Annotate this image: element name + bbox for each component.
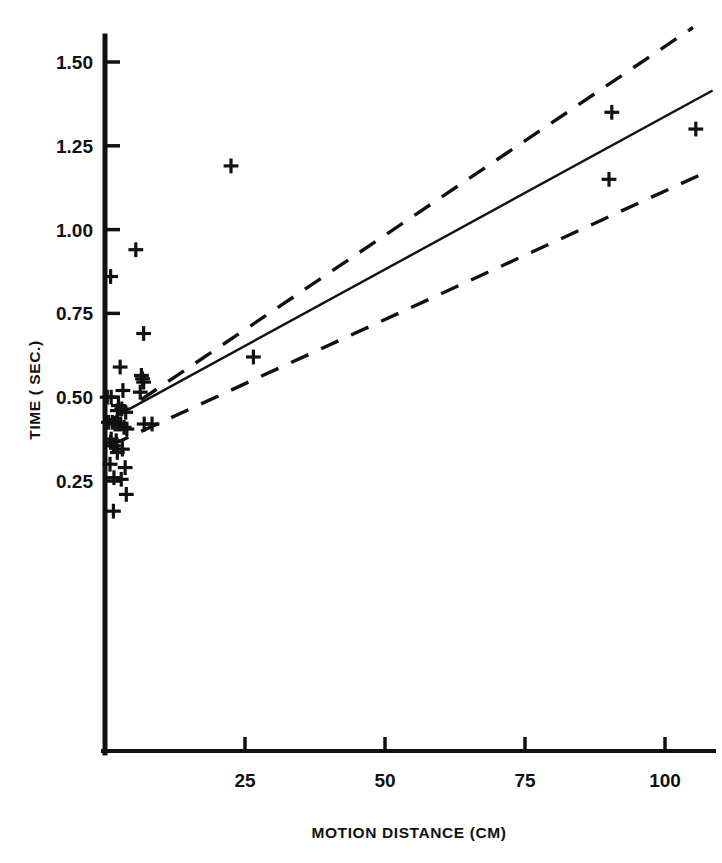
y-axis-tick-labels: 0.250.500.751.001.251.50 (56, 52, 93, 492)
data-point-marker (688, 122, 703, 137)
x-tick-label: 100 (649, 770, 681, 791)
regression-line (105, 90, 713, 422)
x-axis-ticks (245, 737, 665, 751)
scatter-plot-figure: 0.250.500.751.001.251.50 255075100 MOTIO… (0, 0, 722, 863)
data-points-group (100, 105, 703, 519)
data-point-marker (107, 470, 122, 485)
upper-confidence-band (141, 27, 693, 399)
y-tick-label: 1.00 (56, 220, 93, 241)
chart-canvas: 0.250.500.751.001.251.50 255075100 MOTIO… (0, 0, 722, 863)
y-axis-title: TIME ( SEC.) (26, 340, 43, 439)
x-tick-label: 75 (514, 770, 536, 791)
data-point-marker (113, 360, 128, 375)
data-point-marker (604, 105, 619, 120)
data-point-marker (136, 326, 151, 341)
y-tick-label: 0.50 (56, 387, 93, 408)
axis-lines (103, 36, 714, 753)
x-axis-title: MOTION DISTANCE (CM) (311, 824, 506, 841)
data-point-marker (106, 504, 121, 519)
data-point-marker (224, 159, 239, 174)
data-point-marker (119, 487, 134, 502)
x-tick-label: 50 (374, 770, 395, 791)
x-axis-tick-labels: 255075100 (234, 770, 680, 791)
y-tick-label: 1.50 (56, 52, 93, 73)
y-tick-label: 0.25 (56, 471, 93, 492)
data-point-marker (128, 242, 143, 257)
lower-confidence-band (111, 174, 701, 445)
x-tick-label: 25 (234, 770, 256, 791)
fit-lines-group (105, 27, 713, 445)
y-tick-label: 0.75 (56, 303, 93, 324)
y-tick-label: 1.25 (56, 136, 93, 157)
data-point-marker (602, 172, 617, 187)
data-point-marker (246, 350, 261, 365)
